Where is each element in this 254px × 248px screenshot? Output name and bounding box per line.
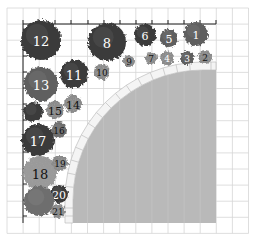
plant-label: 2 [202, 53, 208, 63]
plant-label: 12 [33, 34, 50, 49]
plant-3: 3 [180, 51, 194, 65]
plant-label: 9 [126, 57, 132, 67]
plant-10: 10 [94, 64, 110, 80]
plant-18: 18 [23, 156, 57, 190]
plant-label: 5 [166, 33, 173, 46]
plant-label: 21 [52, 207, 63, 217]
plant-label: 18 [32, 167, 49, 182]
plant-15: 15 [46, 101, 64, 119]
plant-12: 12 [21, 20, 61, 60]
plant-unlabeled-a [23, 102, 43, 122]
plant-label: 8 [103, 36, 111, 51]
plant-19: 19 [52, 155, 68, 171]
plant-16: 16 [51, 122, 67, 138]
plant-5: 5 [160, 29, 178, 47]
plant-14: 14 [64, 95, 82, 113]
plant-label: 17 [30, 134, 47, 149]
lawn-area [73, 70, 216, 223]
plant-label: 1 [193, 29, 200, 42]
plant-label: 6 [142, 30, 149, 43]
plant-13: 13 [24, 67, 58, 101]
plant-label: 16 [53, 126, 65, 136]
plant-17: 17 [22, 124, 54, 156]
plant-unlabeled-b [24, 186, 54, 216]
plant-label: 10 [96, 68, 108, 78]
plant-1: 1 [184, 22, 208, 46]
plant-11: 11 [60, 60, 88, 88]
plant-9: 9 [123, 55, 135, 67]
lawn [73, 70, 216, 223]
plant-label: 19 [54, 159, 66, 169]
plant-label: 13 [33, 78, 50, 93]
plant-label: 15 [48, 105, 62, 118]
plant-4: 4 [160, 51, 174, 65]
plant-label: 4 [164, 54, 170, 64]
plant-2: 2 [198, 50, 212, 64]
plant-label: 3 [184, 54, 190, 64]
garden-plan-diagram: 123456789101112131415161718192021 [0, 0, 254, 248]
plant-label: 20 [52, 189, 66, 202]
plant-label: 7 [148, 54, 154, 64]
plant-6: 6 [134, 24, 156, 46]
plant-label: 11 [66, 68, 83, 83]
plant-8: 8 [88, 23, 126, 61]
plant-7: 7 [145, 52, 157, 64]
plant-label: 14 [66, 99, 80, 112]
